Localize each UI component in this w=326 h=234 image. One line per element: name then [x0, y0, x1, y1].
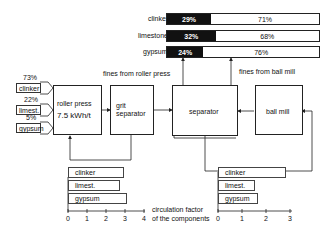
split-bar-gypsum: 24% 76% — [166, 46, 320, 58]
split-bar-clinker: 29% 71% — [166, 13, 320, 25]
tick-left-1: 1 — [85, 215, 89, 223]
tick-right-1: 1 — [240, 215, 244, 223]
split-ball-mill-gypsum: 76% — [203, 47, 319, 57]
tick-left-4: 4 — [142, 215, 146, 223]
circ-bar-limestone-left: limest. — [68, 180, 120, 191]
roller-press-label: roller press — [57, 100, 92, 108]
ball-mill-label: ball mill — [266, 108, 289, 116]
split-label-gypsum: gypsum — [143, 48, 168, 56]
split-roller-press-limestone: 32% — [167, 31, 216, 41]
split-roller-press-clinker: 29% — [167, 14, 211, 24]
tick-left-3: 3 — [123, 215, 127, 223]
separator-label: separator — [189, 108, 219, 116]
circ-bar-limestone-right: limest. — [218, 180, 255, 191]
feed-label-clinker: clinker — [16, 83, 41, 93]
tick-left-2: 2 — [104, 215, 108, 223]
fines-roller-press-label: fines from roller press — [103, 70, 170, 78]
split-roller-press-gypsum: 24% — [167, 47, 203, 57]
split-bar-limestone: 32% 68% — [166, 30, 320, 42]
feed-pct-gypsum: 5% — [26, 114, 36, 122]
circ-bar-gypsum-left: gypsum — [68, 193, 127, 204]
feed-pct-limestone: 22% — [24, 96, 38, 104]
tick-right-2: 2 — [264, 215, 268, 223]
feed-pct-clinker: 73% — [23, 74, 37, 82]
circ-bar-gypsum-right: gypsum — [218, 193, 258, 204]
tick-left-0: 0 — [66, 215, 70, 223]
split-label-limestone: limestone — [138, 32, 168, 40]
ball-mill-box: ball mill — [255, 85, 303, 135]
roller-press-energy: 7.5 kWh/t — [57, 112, 91, 120]
grit-separator-box: grit separator — [110, 85, 154, 135]
axis-label-line2: of the components — [152, 215, 210, 223]
feed-label-gypsum: gypsum — [16, 123, 41, 133]
grit-separator-line1: grit — [116, 102, 126, 110]
tick-right-0: 0 — [216, 215, 220, 223]
split-ball-mill-clinker: 71% — [211, 14, 319, 24]
tick-right-3: 3 — [288, 215, 292, 223]
circ-bar-clinker-left: clinker — [68, 167, 124, 178]
circ-bar-clinker-right: clinker — [218, 167, 286, 178]
roller-press-box: roller press 7.5 kWh/t — [53, 85, 102, 135]
grit-separator-line2: separator — [116, 110, 146, 118]
axis-label-line1: circulation factor — [152, 206, 203, 214]
separator-box: separator — [172, 85, 238, 136]
fines-ball-mill-label: fines from ball mill — [239, 68, 295, 76]
split-ball-mill-limestone: 68% — [216, 31, 319, 41]
